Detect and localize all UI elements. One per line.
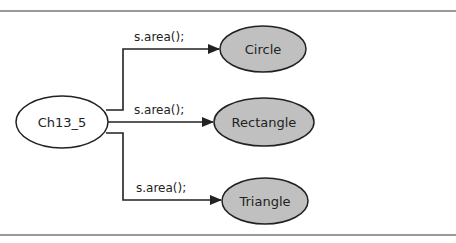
edge-to-triangle: s.area(); [106,133,221,200]
edge-label-circle: s.area(); [134,30,184,44]
edge-to-circle: s.area(); [106,30,219,110]
node-label-triangle: Triangle [238,194,290,209]
node-label-rectangle: Rectangle [232,115,297,130]
edge-label-rectangle: s.area(); [134,103,184,117]
edge-label-triangle: s.area(); [136,181,186,195]
node-label-circle: Circle [245,42,282,57]
node-circle: Circle [220,26,306,72]
polymorphism-diagram: s.area(); s.area(); s.area(); Ch13_5 Cir… [0,0,456,243]
node-ch13-5: Ch13_5 [16,96,108,148]
node-triangle: Triangle [222,178,308,224]
node-rectangle: Rectangle [214,98,314,146]
node-label-ch13-5: Ch13_5 [38,115,87,130]
